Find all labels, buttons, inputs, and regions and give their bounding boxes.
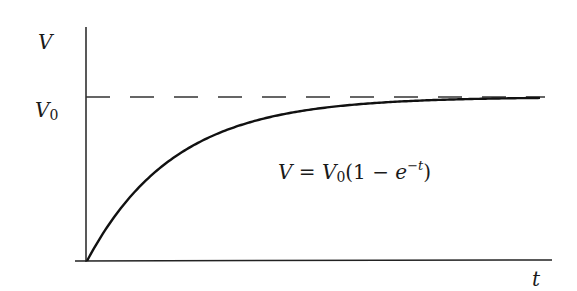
equation-annotation: V = V0(1 − e−t): [278, 158, 431, 185]
y-axis-label: V: [38, 30, 55, 54]
chart: V t V0 V = V0(1 − e−t): [0, 0, 577, 291]
asymptote-label: V0: [35, 98, 58, 123]
x-axis-label: t: [532, 267, 541, 291]
x-axis: [75, 260, 552, 261]
